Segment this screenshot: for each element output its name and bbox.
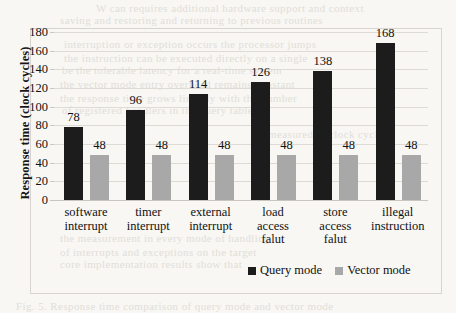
x-axis-category-label: softwareinterrupt <box>50 206 122 233</box>
bar-vector-mode[interactable]: 48 <box>152 155 171 200</box>
x-axis-category-line: interrupt <box>112 220 184 234</box>
bleed-line: Fig. 5. Response time comparison of quer… <box>16 300 333 312</box>
x-axis-category-line: load <box>237 206 309 220</box>
bar-vector-mode[interactable]: 48 <box>90 155 109 200</box>
bar-value-label: 78 <box>67 110 80 125</box>
bar-group: 7848softwareinterrupt <box>54 32 116 200</box>
y-tick-label: 100 <box>29 99 48 114</box>
x-axis-category-line: store <box>299 206 371 220</box>
x-axis-category-line: falut <box>299 233 371 247</box>
y-tick-label: 20 <box>36 174 49 189</box>
legend-item[interactable]: Query mode <box>248 263 322 278</box>
x-axis-category-line: access <box>237 220 309 234</box>
x-axis-category-line: illegal <box>362 206 434 220</box>
legend-item[interactable]: Vector mode <box>335 263 411 278</box>
y-tick-label: 80 <box>36 118 49 133</box>
y-tick-mark <box>50 200 54 201</box>
bleed-line: W can requires additional hardware suppo… <box>96 2 364 14</box>
x-axis-category-label: loadaccessfalut <box>237 206 309 247</box>
legend-label: Query mode <box>260 263 322 278</box>
x-axis-category-line: interrupt <box>175 220 247 234</box>
y-tick-label: 140 <box>29 62 48 77</box>
x-axis-category-line: access <box>299 220 371 234</box>
bar-value-label: 48 <box>218 138 231 153</box>
bar-vector-mode[interactable]: 48 <box>277 155 296 200</box>
x-axis-category-line: instruction <box>362 220 434 234</box>
bar-group: 13848storeaccessfalut <box>303 32 365 200</box>
y-tick-label: 40 <box>36 155 49 170</box>
bar-group: 11448externalinterrupt <box>179 32 241 200</box>
bar-query-mode[interactable]: 168 <box>376 43 395 200</box>
y-tick-label: 0 <box>42 193 48 208</box>
bar-value-label: 48 <box>405 138 418 153</box>
bar-value-label: 168 <box>376 26 395 41</box>
x-axis-category-line: falut <box>237 233 309 247</box>
bar-value-label: 48 <box>156 138 169 153</box>
chart-legend: Query modeVector mode <box>248 263 411 278</box>
bar-group: 12648loadaccessfalut <box>241 32 303 200</box>
y-tick-label: 160 <box>29 43 48 58</box>
bar-vector-mode[interactable]: 48 <box>402 155 421 200</box>
legend-label: Vector mode <box>347 263 411 278</box>
gridline <box>54 200 428 201</box>
x-axis-category-label: illegalinstruction <box>362 206 434 233</box>
plot-inner: 1801601401201008060402007848softwareinte… <box>54 32 428 200</box>
bar-value-label: 96 <box>130 93 143 108</box>
bar-vector-mode[interactable]: 48 <box>215 155 234 200</box>
x-axis-category-label: timerinterrupt <box>112 206 184 233</box>
bar-value-label: 126 <box>251 65 270 80</box>
bar-vector-mode[interactable]: 48 <box>339 155 358 200</box>
bar-group: 16848illegalinstruction <box>366 32 428 200</box>
y-tick-label: 120 <box>29 81 48 96</box>
bar-query-mode[interactable]: 138 <box>313 71 332 200</box>
bar-group: 9648timerinterrupt <box>116 32 178 200</box>
bar-query-mode[interactable]: 114 <box>189 94 208 200</box>
legend-swatch-icon <box>335 267 343 275</box>
bar-value-label: 48 <box>93 138 106 153</box>
x-axis-category-line: interrupt <box>50 220 122 234</box>
bar-value-label: 48 <box>343 138 356 153</box>
y-tick-label: 180 <box>29 25 48 40</box>
x-axis-category-label: storeaccessfalut <box>299 206 371 247</box>
x-axis-category-line: software <box>50 206 122 220</box>
y-tick-label: 60 <box>36 137 49 152</box>
bar-value-label: 138 <box>313 54 332 69</box>
bleed-line: saving and restoring and returning to pr… <box>60 14 323 26</box>
x-axis-category-label: externalinterrupt <box>175 206 247 233</box>
bar-query-mode[interactable]: 78 <box>64 127 83 200</box>
x-axis-category-line: external <box>175 206 247 220</box>
plot-area: 1801601401201008060402007848softwareinte… <box>54 32 428 200</box>
bar-value-label: 48 <box>280 138 293 153</box>
bar-value-label: 114 <box>189 77 207 92</box>
bar-query-mode[interactable]: 96 <box>126 110 145 200</box>
legend-swatch-icon <box>248 267 256 275</box>
bar-query-mode[interactable]: 126 <box>251 82 270 200</box>
x-axis-category-line: timer <box>112 206 184 220</box>
